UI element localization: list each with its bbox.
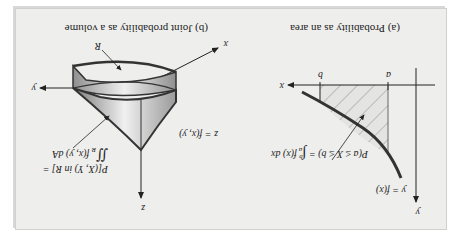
panel-a-title: (a) Probability as an area (290, 23, 400, 35)
a-y-axis-label: y (416, 207, 420, 218)
figure-rotated-180: y x a b y = f(x) P(a ≤ X ≤ b) = ∫ab f(x)… (0, 0, 458, 240)
tick-b-label: b (318, 70, 323, 81)
region-outline (73, 62, 176, 72)
b-x-axis-label: x (224, 39, 228, 50)
region-label: R (95, 41, 101, 52)
volume-formula: P[(X, Y) in R] = ∬R f(x, y) dA (43, 143, 108, 176)
volume-body (73, 88, 176, 150)
panel-a-graphics (288, 68, 435, 202)
tick-a-label: a (386, 70, 391, 81)
formula-lhs: P(a ≤ X ≤ b) = (306, 149, 368, 160)
surface-label: z = f(x, y) (179, 129, 218, 140)
formula-rhs: f(x) dx (271, 149, 297, 160)
region-leader (102, 50, 121, 70)
shaded-area (320, 85, 388, 155)
area-formula: P(a ≤ X ≤ b) = ∫ab f(x) dx (271, 146, 368, 164)
curve-label: y = f(x) (376, 185, 406, 196)
panel-b-title: (b) Joint probability as a volume (65, 23, 208, 35)
integral-sign: ∫ (302, 146, 306, 162)
formula-line1: P[(X, Y) in R] = (43, 162, 108, 176)
a-x-axis-label: x (280, 81, 284, 92)
double-integral-sign: ∬ (96, 148, 108, 163)
b-z-axis-label: z (141, 203, 145, 214)
b-y-axis-label: y (32, 83, 36, 94)
region-band (73, 66, 176, 96)
figure-graphics (0, 0, 458, 240)
formula-line2: ∬R f(x, y) dA (43, 143, 108, 162)
